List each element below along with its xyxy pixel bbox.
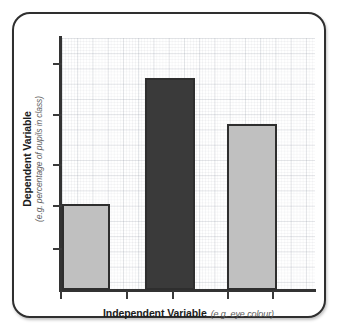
y-axis-tick [53, 164, 62, 166]
y-axis-label: Dependent Variable (e.g. percentage of p… [16, 64, 50, 254]
x-axis-title: Independent Variable [103, 307, 207, 319]
bar-category-1 [62, 204, 110, 290]
x-axis-label: Independent Variable(e.g. eye colour) [62, 303, 315, 321]
y-axis-tick [53, 63, 62, 65]
x-axis-tick [227, 291, 229, 299]
x-axis-tick [172, 291, 174, 299]
y-axis-tick [53, 114, 62, 116]
bar-category-2 [145, 78, 195, 290]
x-axis-subtitle: (e.g. eye colour) [211, 309, 274, 319]
x-axis-tick [272, 291, 274, 299]
y-axis-title: Dependent Variable [21, 111, 34, 207]
bar-category-3 [227, 124, 277, 290]
bar-chart: Dependent Variable (e.g. percentage of p… [0, 0, 342, 335]
y-axis-tick [53, 205, 62, 207]
y-axis-subtitle: (e.g. percentage of pupils in class) [34, 96, 45, 222]
y-axis-tick [53, 248, 62, 250]
x-axis-tick [126, 291, 128, 299]
x-axis-tick [60, 291, 62, 299]
